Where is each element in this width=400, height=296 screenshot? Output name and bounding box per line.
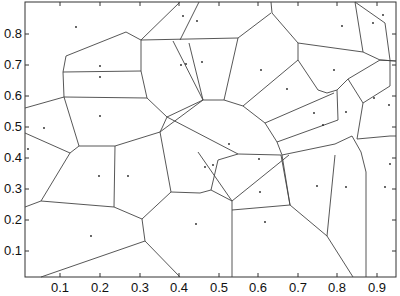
y-tick-label: 0.8 xyxy=(4,26,22,41)
y-tick-label: 0.7 xyxy=(4,57,22,72)
voronoi-plot: 0.1 0.2 0.3 0.4 0.5 0.6 0.7 0.8 0.9 0.8 … xyxy=(0,0,400,296)
x-tick-label: 0.3 xyxy=(131,280,149,295)
x-tick-label: 0.1 xyxy=(51,280,69,295)
x-tick-label: 0.8 xyxy=(328,280,346,295)
x-tick-label: 0.4 xyxy=(170,280,188,295)
x-tick-label: 0.2 xyxy=(91,280,109,295)
x-tick-label: 0.7 xyxy=(289,280,307,295)
x-axis-labels: 0.1 0.2 0.3 0.4 0.5 0.6 0.7 0.8 0.9 xyxy=(51,280,386,295)
y-axis-labels: 0.8 0.7 0.6 0.5 0.4 0.3 0.2 0.1 xyxy=(4,26,22,258)
y-tick-label: 0.5 xyxy=(4,119,22,134)
y-tick-label: 0.1 xyxy=(4,243,22,258)
x-tick-label: 0.9 xyxy=(368,280,386,295)
x-tick-label: 0.5 xyxy=(210,280,228,295)
y-tick-label: 0.2 xyxy=(4,212,22,227)
y-tick-label: 0.4 xyxy=(4,150,22,165)
y-tick-label: 0.3 xyxy=(4,181,22,196)
x-tick-label: 0.6 xyxy=(249,280,267,295)
y-tick-label: 0.6 xyxy=(4,88,22,103)
